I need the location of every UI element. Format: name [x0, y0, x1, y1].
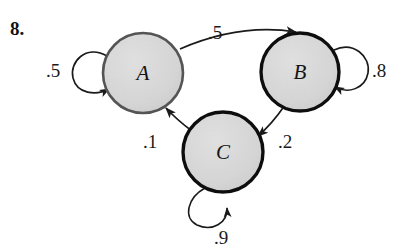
edge-a-self-loop: .5 [46, 52, 109, 93]
node-c[interactable]: C [183, 112, 263, 192]
edge-label-c-self-loop: .9 [214, 227, 228, 248]
edge-c-to-a-arrow [166, 108, 192, 131]
edge-c-self-loop: .9 [189, 188, 229, 248]
node-b[interactable]: B [261, 33, 339, 111]
node-c-label: C [216, 140, 231, 164]
node-b-label: B [294, 60, 307, 84]
node-a[interactable]: A [103, 33, 183, 113]
node-a-label: A [135, 61, 150, 85]
edge-label-b-self-loop: .8 [372, 60, 386, 81]
state-transition-diagram: .5 .2 .1 .5 .8 .9 A [0, 0, 398, 250]
edge-label-c-to-a: .1 [143, 131, 157, 152]
edge-label-a-to-b: .5 [208, 22, 222, 43]
edge-c-self-loop-arrow [189, 188, 227, 227]
edge-b-self-loop: .8 [334, 47, 386, 90]
diagram-page: 8. .5 [0, 0, 398, 250]
edge-label-a-self-loop: .5 [46, 60, 60, 81]
edge-label-b-to-c: .2 [278, 131, 292, 152]
